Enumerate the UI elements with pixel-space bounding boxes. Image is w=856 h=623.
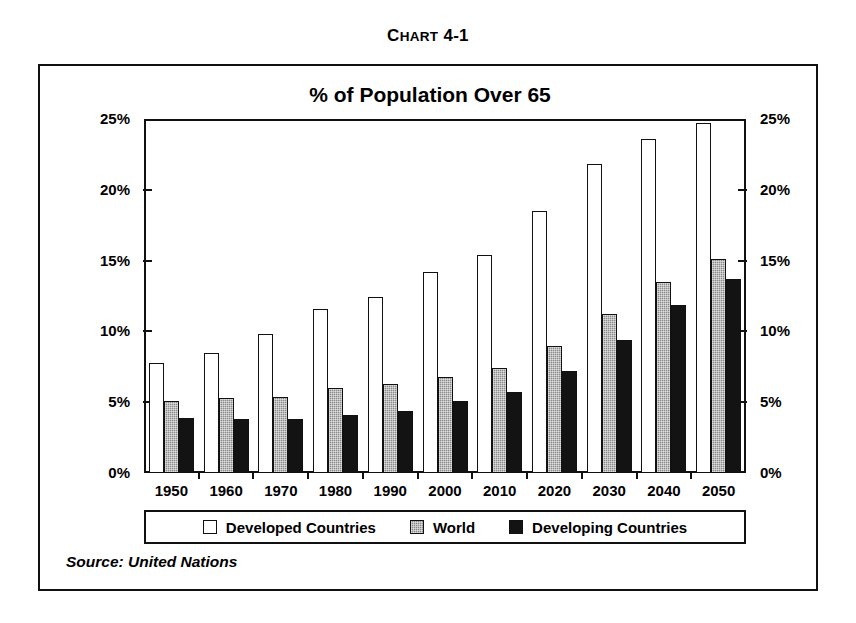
x-axis-tick-label-1950: 1950 xyxy=(144,482,199,499)
y-axis-tick-label-right: 0% xyxy=(760,465,782,480)
y-axis-tick-label-right: 5% xyxy=(760,394,782,409)
bar-group xyxy=(587,119,632,473)
bar-developing-2020 xyxy=(562,371,577,473)
bar-world-2020 xyxy=(547,346,562,473)
bar-group xyxy=(204,119,249,473)
y-axis-tick-label-left: 5% xyxy=(108,394,130,409)
x-axis-tick-label-1970: 1970 xyxy=(253,482,308,499)
bar-developing-1960 xyxy=(234,419,249,473)
bar-developed-2010 xyxy=(477,255,492,473)
bar-group xyxy=(477,119,522,473)
x-axis-tick-label-2040: 2040 xyxy=(637,482,692,499)
bar-world-1990 xyxy=(383,384,398,473)
bar-developing-1980 xyxy=(343,415,358,473)
legend-label: Developed Countries xyxy=(226,519,376,536)
bar-group xyxy=(313,119,358,473)
caption-rest: HART xyxy=(400,29,439,44)
bar-developed-1970 xyxy=(258,334,273,473)
y-axis-tick-label-right: 10% xyxy=(760,323,790,338)
category-tick xyxy=(307,472,309,479)
bar-developing-2000 xyxy=(453,401,468,473)
x-axis-tick-label-2050: 2050 xyxy=(691,482,746,499)
category-tick xyxy=(198,472,200,479)
bar-group xyxy=(696,119,741,473)
y-axis-tick-label-right: 25% xyxy=(760,111,790,126)
x-axis-tick-label-2010: 2010 xyxy=(472,482,527,499)
bar-group xyxy=(368,119,413,473)
bar-developed-1960 xyxy=(204,353,219,473)
caption-number: 4-1 xyxy=(443,26,468,45)
x-axis-labels: 1950196019701980199020002010202020302040… xyxy=(144,482,746,506)
bar-world-2040 xyxy=(656,282,671,473)
chart-panel: % of Population Over 65 0%0%5%5%10%10%15… xyxy=(38,64,818,591)
bar-group xyxy=(258,119,303,473)
bar-world-2030 xyxy=(602,314,617,473)
bar-group xyxy=(423,119,468,473)
legend-swatch-developing-icon xyxy=(509,520,523,534)
bar-developed-2000 xyxy=(423,272,438,473)
category-tick xyxy=(526,472,528,479)
y-axis-tick-label-left: 0% xyxy=(108,465,130,480)
category-tick xyxy=(362,472,364,479)
caption-lead: C xyxy=(387,26,400,45)
y-axis-tick-label-right: 15% xyxy=(760,253,790,268)
y-axis-tick-label-left: 10% xyxy=(100,323,130,338)
y-axis-tick-label-left: 15% xyxy=(100,253,130,268)
bar-world-1950 xyxy=(164,401,179,473)
legend-swatch-world-icon xyxy=(410,520,424,534)
category-tick xyxy=(636,472,638,479)
bar-developing-2030 xyxy=(617,340,632,473)
x-axis-tick-label-2030: 2030 xyxy=(582,482,637,499)
bar-group xyxy=(532,119,577,473)
legend-swatch-developed-icon xyxy=(203,520,217,534)
bar-group xyxy=(641,119,686,473)
bar-developed-2030 xyxy=(587,164,602,473)
bar-world-2000 xyxy=(438,377,453,473)
bar-developing-2040 xyxy=(671,305,686,474)
bar-world-2050 xyxy=(711,259,726,473)
x-axis-tick-label-2020: 2020 xyxy=(527,482,582,499)
legend-label: Developing Countries xyxy=(532,519,687,536)
bar-developing-1990 xyxy=(398,411,413,473)
source-note: Source: United Nations xyxy=(66,553,237,571)
bar-developed-1990 xyxy=(368,297,383,473)
legend-item[interactable]: Developed Countries xyxy=(203,519,376,536)
category-tick xyxy=(690,472,692,479)
legend-label: World xyxy=(433,519,475,536)
bar-world-1960 xyxy=(219,398,234,473)
y-axis-tick-label-right: 20% xyxy=(760,182,790,197)
bar-developed-2020 xyxy=(532,211,547,473)
bar-developing-2010 xyxy=(507,392,522,473)
plot-area: 0%0%5%5%10%10%15%15%20%20%25%25% xyxy=(144,119,746,473)
x-axis-tick-label-2000: 2000 xyxy=(418,482,473,499)
bar-developed-2040 xyxy=(641,139,656,473)
bar-world-1970 xyxy=(273,397,288,473)
category-tick xyxy=(417,472,419,479)
y-axis-tick-label-left: 25% xyxy=(100,111,130,126)
x-axis-tick-label-1980: 1980 xyxy=(308,482,363,499)
bar-world-1980 xyxy=(328,388,343,473)
y-axis-tick-label-left: 20% xyxy=(100,182,130,197)
bar-developing-1970 xyxy=(288,419,303,473)
bar-developed-1950 xyxy=(149,363,164,473)
bar-group xyxy=(149,119,194,473)
legend-item[interactable]: Developing Countries xyxy=(509,519,687,536)
bar-developing-2050 xyxy=(726,279,741,473)
category-tick xyxy=(471,472,473,479)
chart-legend: Developed CountriesWorldDeveloping Count… xyxy=(144,510,746,544)
bar-world-2010 xyxy=(492,368,507,473)
legend-item[interactable]: World xyxy=(410,519,475,536)
bar-developed-2050 xyxy=(696,123,711,473)
category-tick xyxy=(252,472,254,479)
bar-developing-1950 xyxy=(179,418,194,473)
category-tick xyxy=(581,472,583,479)
x-axis-tick-label-1960: 1960 xyxy=(199,482,254,499)
chart-title: % of Population Over 65 xyxy=(40,83,820,107)
figure-caption: CHART 4-1 xyxy=(0,26,856,46)
bar-developed-1980 xyxy=(313,309,328,473)
x-axis-tick-label-1990: 1990 xyxy=(363,482,418,499)
